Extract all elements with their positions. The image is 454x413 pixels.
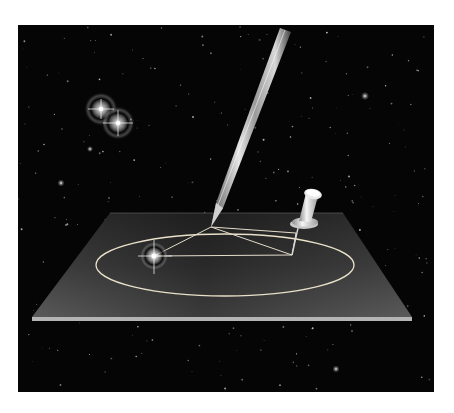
space-background	[18, 25, 434, 392]
orbit-illustration	[0, 0, 454, 413]
